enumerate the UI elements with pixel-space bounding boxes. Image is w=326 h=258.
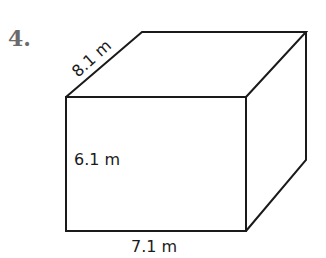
width-label: 7.1 m (131, 237, 177, 256)
prism-diagram: 8.1 m 6.1 m 7.1 m (0, 0, 326, 258)
height-label: 6.1 m (74, 150, 120, 169)
right-face (246, 32, 306, 231)
